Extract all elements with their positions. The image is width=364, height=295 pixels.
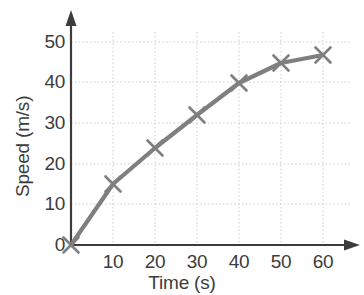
y-tick-label-50: 50 — [25, 31, 65, 53]
x-tick-label-20: 20 — [135, 251, 175, 273]
y-axis-arrow-icon — [66, 10, 77, 26]
x-axis — [71, 240, 360, 251]
y-axis-title: Speed (m/s) — [12, 96, 34, 197]
x-tick-label-60: 60 — [303, 251, 343, 273]
x-tick-label-50: 50 — [261, 251, 301, 273]
x-tick-label-40: 40 — [219, 251, 259, 273]
x-tick-label-10: 10 — [93, 251, 133, 273]
x-axis-arrow-icon — [344, 240, 360, 251]
y-tick-label-0: 0 — [25, 234, 65, 256]
y-axis — [66, 10, 77, 245]
vertical-gridlines — [113, 32, 323, 245]
speed-time-line-chart: 50 40 30 20 10 0 10 20 30 40 50 60 Speed… — [0, 0, 364, 295]
x-axis-title: Time (s) — [0, 272, 364, 294]
y-tick-label-40: 40 — [25, 71, 65, 93]
x-tick-label-30: 30 — [177, 251, 217, 273]
